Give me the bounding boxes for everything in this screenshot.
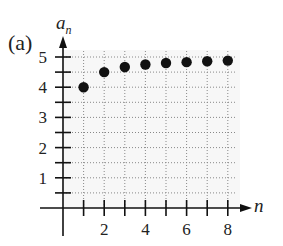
y-tick-label: 3 [39,108,48,127]
data-point [181,57,191,67]
x-axis-arrow-icon [240,204,252,212]
data-point [223,55,233,65]
data-point [120,62,130,72]
x-tick-label: 4 [141,220,150,239]
x-tick-labels: 2468 [100,220,232,239]
data-point [140,59,150,69]
scatter-chart: 12345 2468 [0,0,283,246]
data-point [161,58,171,68]
y-tick-labels: 12345 [39,48,48,188]
data-point [99,67,109,77]
y-tick-label: 4 [39,78,48,97]
y-axis-arrow-icon [59,36,67,48]
y-tick-label: 1 [39,169,48,188]
data-point [78,82,88,92]
data-point [202,56,212,66]
x-tick-label: 2 [100,220,109,239]
x-tick-label: 6 [182,220,191,239]
plot-background [63,50,240,208]
y-tick-label: 2 [39,139,48,158]
x-tick-label: 8 [224,220,233,239]
y-tick-label: 5 [39,48,48,67]
